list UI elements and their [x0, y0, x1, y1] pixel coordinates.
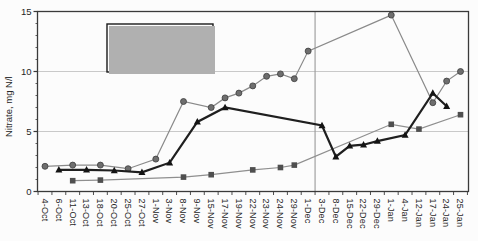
series-finished-water — [55, 89, 450, 175]
circle-marker — [291, 76, 297, 82]
x-tick-label: 27-Oct — [137, 199, 147, 228]
y-tick-label: 0 — [26, 186, 31, 197]
x-tick-label: 20-Oct — [109, 199, 119, 228]
x-tick-label: 18-Oct — [95, 199, 105, 228]
circle-marker — [97, 162, 103, 168]
x-tick-label: 17-Jan — [428, 199, 438, 228]
series-evergreen-lake — [70, 112, 463, 184]
x-tick-label: 22-Nov — [248, 199, 258, 230]
chart-canvas: Nitrate, mg N/l 0510154-Oct6-Oct11-Oct13… — [0, 0, 478, 241]
circle-marker — [42, 163, 48, 169]
series-lake-bloomington — [42, 12, 464, 172]
x-tick-label: 11-Oct — [68, 199, 78, 227]
square-marker — [250, 167, 256, 173]
x-tick-label: 24-Nov — [275, 199, 285, 230]
square-marker — [388, 122, 394, 128]
x-tick-label: 15-Dec — [345, 199, 355, 230]
x-tick-label: 23-Nov — [261, 199, 271, 230]
y-tick-label: 10 — [21, 66, 32, 77]
square-marker — [416, 126, 422, 132]
y-axis-title: Nitrate, mg N/l — [3, 76, 14, 137]
x-tick-label: 8-Nov — [178, 199, 188, 224]
triangle-marker — [429, 89, 436, 96]
circle-marker — [277, 71, 283, 77]
circle-marker — [70, 162, 76, 168]
x-tick-label: 1-Dec — [303, 199, 313, 224]
legend-shadow — [109, 26, 215, 74]
circle-marker — [222, 95, 228, 101]
x-tick-label: 3-Nov — [164, 199, 174, 224]
square-marker — [278, 165, 284, 171]
x-tick-label: 13-Oct — [81, 199, 91, 228]
x-tick-label: 22-Dec — [358, 199, 368, 230]
x-tick-label: 1-Jan — [386, 199, 396, 223]
x-tick-label: 1-Nov — [151, 199, 161, 224]
circle-marker — [236, 90, 242, 96]
square-marker — [70, 178, 76, 184]
nitrate-time-series-chart: Nitrate, mg N/l 0510154-Oct6-Oct11-Oct13… — [0, 0, 478, 241]
circle-marker — [458, 69, 464, 75]
x-tick-label: 12-Jan — [414, 199, 424, 228]
square-marker — [458, 112, 464, 118]
x-tick-label: 29-Dec — [372, 199, 382, 230]
square-marker — [181, 174, 187, 180]
x-tick-label: 29-Nov — [289, 199, 299, 230]
circle-marker — [388, 12, 394, 18]
circle-marker — [181, 99, 187, 105]
square-marker — [292, 162, 298, 168]
x-tick-label: 4-Jan — [400, 199, 410, 223]
square-marker — [98, 177, 104, 183]
circle-marker — [153, 156, 159, 162]
x-tick-label: 9-Nov — [192, 199, 202, 224]
x-tick-label: 6-Oct — [54, 199, 64, 222]
circle-marker — [264, 73, 270, 79]
circle-marker — [250, 83, 256, 89]
x-tick-label: 24-Jan — [441, 199, 451, 228]
x-tick-label: 8-Dec — [331, 199, 341, 224]
y-tick-label: 15 — [21, 6, 32, 17]
circle-marker — [208, 105, 214, 111]
circle-marker — [444, 78, 450, 84]
x-tick-label: 25-Oct — [123, 199, 133, 228]
circle-marker — [305, 48, 311, 54]
series-line-finished-water — [59, 93, 447, 172]
square-marker — [208, 172, 214, 178]
x-tick-label: 15-Nov — [206, 199, 216, 230]
circle-marker — [430, 100, 436, 106]
x-tick-label: 25-Jan — [455, 199, 465, 228]
x-tick-label: 4-Oct — [40, 199, 50, 222]
y-tick-label: 5 — [26, 126, 31, 137]
x-tick-label: 3-Dec — [317, 199, 327, 224]
x-tick-label: 17-Nov — [220, 199, 230, 230]
x-tick-label: 19-Nov — [234, 199, 244, 230]
